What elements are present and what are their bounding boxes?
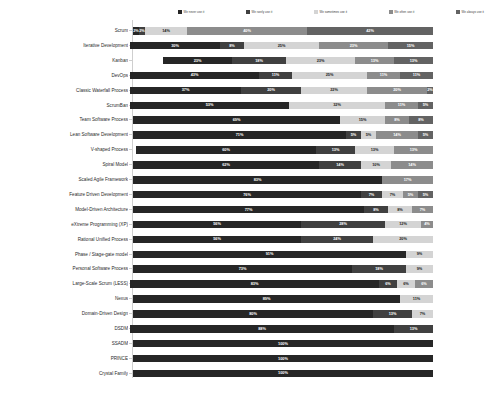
bar-segment[interactable]: 13%	[394, 146, 433, 154]
bar-segment[interactable]: 20%	[367, 87, 427, 95]
stacked-bar[interactable]: 80%13%7%	[133, 310, 433, 318]
bar-segment[interactable]: 6%	[397, 280, 415, 288]
bar-segment[interactable]: 11%	[400, 295, 433, 303]
bar-segment[interactable]: 69%	[133, 116, 340, 124]
bar-segment[interactable]: 77%	[133, 206, 364, 214]
bar-segment[interactable]: 71%	[133, 131, 346, 139]
bar-segment[interactable]: 15%	[340, 116, 385, 124]
bar-segment[interactable]: 83%	[130, 280, 379, 288]
bar-segment[interactable]: 4%	[421, 221, 433, 229]
legend-item[interactable]: We never use it	[178, 10, 204, 14]
bar-segment[interactable]: 10%	[361, 161, 391, 169]
stacked-bar[interactable]: 77%8%8%7%	[133, 206, 433, 214]
bar-segment[interactable]: 9%	[406, 265, 433, 273]
bar-segment[interactable]: 43%	[130, 72, 259, 80]
bar-segment[interactable]: 88%	[130, 325, 394, 333]
bar-segment[interactable]: 14%	[376, 131, 418, 139]
bar-segment[interactable]: 11%	[385, 102, 418, 110]
stacked-bar[interactable]: 69%15%8%8%	[133, 116, 433, 124]
stacked-bar[interactable]: 56%24%20%	[133, 236, 433, 244]
stacked-bar[interactable]: 43%11%25%11%11%	[130, 72, 433, 80]
bar-segment[interactable]: 76%	[133, 191, 361, 199]
bar-segment[interactable]: 25%	[292, 72, 367, 80]
bar-segment[interactable]: 56%	[133, 236, 301, 244]
bar-segment[interactable]: 12%	[385, 221, 421, 229]
legend-item[interactable]: We rarely use it	[246, 10, 272, 14]
bar-segment[interactable]: 14%	[319, 161, 361, 169]
bar-segment[interactable]: 83%	[133, 176, 382, 184]
bar-segment[interactable]: 13%	[316, 146, 355, 154]
stacked-bar[interactable]: 83%6%6%6%	[130, 280, 433, 288]
bar-segment[interactable]: 9%	[406, 251, 433, 259]
stacked-bar[interactable]: 89%11%	[133, 295, 433, 303]
bar-segment[interactable]: 100%	[133, 355, 433, 363]
bar-segment[interactable]: 18%	[232, 57, 286, 65]
bar-segment[interactable]: 7%	[412, 310, 433, 318]
bar-segment[interactable]: 8%	[409, 116, 433, 124]
bar-segment[interactable]: 13%	[355, 146, 394, 154]
bar-segment[interactable]: 13%	[373, 310, 412, 318]
bar-segment[interactable]: 15%	[388, 42, 433, 50]
bar-segment[interactable]: 22%	[301, 87, 367, 95]
bar-segment[interactable]: 73%	[133, 265, 352, 273]
stacked-bar[interactable]: 76%7%7%5%5%	[133, 191, 433, 199]
bar-segment[interactable]: 14%	[145, 27, 187, 35]
bar-segment[interactable]: 25%	[244, 42, 319, 50]
bar-segment[interactable]: 7%	[412, 206, 433, 214]
bar-segment[interactable]: 100%	[133, 370, 433, 378]
bar-segment[interactable]: 23%	[286, 57, 355, 65]
bar-segment[interactable]: 18%	[352, 265, 406, 273]
stacked-bar[interactable]: 62%14%10%14%	[133, 161, 433, 169]
bar-segment[interactable]: 37%	[130, 87, 241, 95]
stacked-bar[interactable]: 100%	[133, 355, 433, 363]
bar-segment[interactable]: 60%	[136, 146, 316, 154]
bar-segment[interactable]: 2%	[427, 87, 433, 95]
bar-segment[interactable]: 42%	[307, 27, 433, 35]
bar-segment[interactable]: 17%	[382, 176, 433, 184]
bar-segment[interactable]: 5%	[418, 131, 433, 139]
bar-segment[interactable]: 8%	[364, 206, 388, 214]
stacked-bar[interactable]: 83%17%	[133, 176, 433, 184]
bar-segment[interactable]: 11%	[400, 72, 433, 80]
stacked-bar[interactable]: 100%	[133, 340, 433, 348]
bar-segment[interactable]: 5%	[346, 131, 361, 139]
legend-item[interactable]: We often use it	[389, 10, 414, 14]
stacked-bar[interactable]: 100%	[133, 370, 433, 378]
bar-segment[interactable]: 13%	[394, 57, 433, 65]
stacked-bar[interactable]: 2%2%14%40%42%	[133, 27, 433, 35]
bar-segment[interactable]: 13%	[394, 325, 433, 333]
bar-segment[interactable]: 62%	[133, 161, 319, 169]
legend-item[interactable]: We always use it	[456, 10, 484, 14]
bar-segment[interactable]: 8%	[220, 42, 244, 50]
bar-segment[interactable]: 14%	[391, 161, 433, 169]
bar-segment[interactable]: 100%	[133, 340, 433, 348]
bar-segment[interactable]: 89%	[133, 295, 400, 303]
stacked-bar[interactable]: 71%5%5%14%5%	[133, 131, 433, 139]
bar-segment[interactable]: 91%	[133, 251, 406, 259]
bar-segment[interactable]: 5%	[418, 191, 433, 199]
bar-segment[interactable]: 80%	[133, 310, 373, 318]
bar-segment[interactable]: 23%	[319, 42, 388, 50]
bar-segment[interactable]: 28%	[301, 221, 385, 229]
bar-segment[interactable]: 53%	[130, 102, 289, 110]
stacked-bar[interactable]: 23%18%23%13%13%	[163, 57, 433, 65]
bar-segment[interactable]: 11%	[367, 72, 400, 80]
bar-segment[interactable]: 8%	[385, 116, 409, 124]
bar-segment[interactable]: 6%	[415, 280, 433, 288]
bar-segment[interactable]: 5%	[403, 191, 418, 199]
bar-segment[interactable]: 56%	[133, 221, 301, 229]
bar-segment[interactable]: 24%	[301, 236, 373, 244]
bar-segment[interactable]: 11%	[259, 72, 292, 80]
bar-segment[interactable]: 40%	[187, 27, 307, 35]
bar-segment[interactable]: 6%	[379, 280, 397, 288]
legend-item[interactable]: We sometimes use it	[314, 10, 347, 14]
bar-segment[interactable]: 30%	[130, 42, 220, 50]
stacked-bar[interactable]: 30%8%25%23%15%	[130, 42, 433, 50]
bar-segment[interactable]: 13%	[355, 57, 394, 65]
bar-segment[interactable]: 5%	[418, 102, 433, 110]
bar-segment[interactable]: 20%	[241, 87, 301, 95]
stacked-bar[interactable]: 53%32%11%5%	[130, 102, 433, 110]
bar-segment[interactable]: 7%	[361, 191, 382, 199]
stacked-bar[interactable]: 37%20%22%20%2%	[130, 87, 433, 95]
bar-segment[interactable]: 32%	[289, 102, 385, 110]
